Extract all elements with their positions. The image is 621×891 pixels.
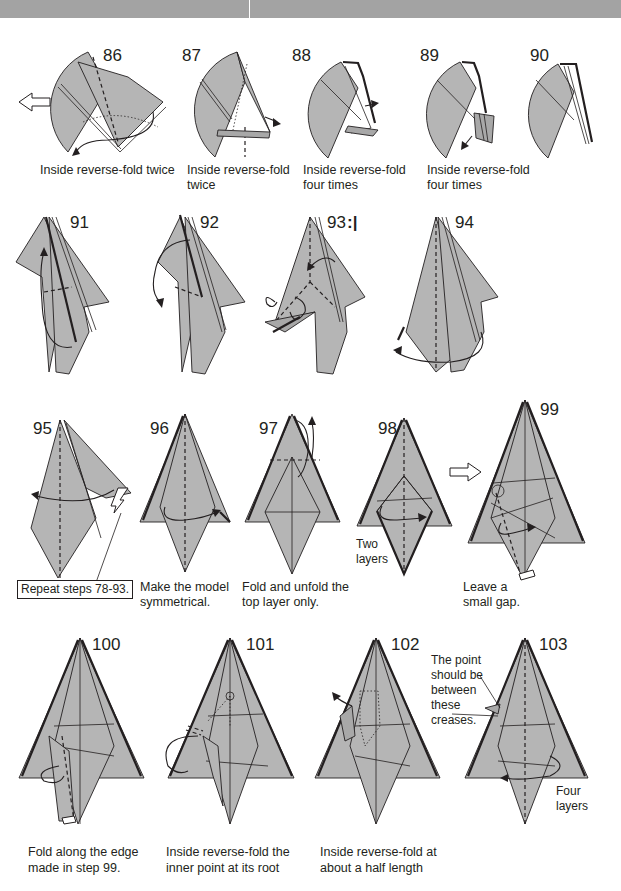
step-caption: Inside reverse-fold the xyxy=(166,845,290,860)
step-100-diagram xyxy=(14,636,149,826)
four-layers-note: layers xyxy=(556,799,588,814)
four-layers-note: Four xyxy=(556,784,581,799)
step-caption: twice xyxy=(187,178,215,193)
step-99-diagram xyxy=(463,398,593,583)
step-number: 98 xyxy=(378,420,397,437)
step-number: 88 xyxy=(292,47,311,64)
step-89-diagram xyxy=(424,58,504,168)
step-caption: top layer only. xyxy=(242,595,319,610)
step-caption: small gap. xyxy=(463,595,520,610)
step-90-diagram xyxy=(526,60,601,160)
step-number: 87 xyxy=(182,47,201,64)
point-note: between xyxy=(431,683,476,698)
step-caption: inner point at its root xyxy=(166,861,279,876)
point-note: creases. xyxy=(431,713,476,728)
step-101-diagram xyxy=(158,636,298,826)
step-number: 91 xyxy=(70,214,89,231)
step-number: 93 xyxy=(327,214,346,231)
step-caption: about a half length xyxy=(320,861,423,876)
step-number: 97 xyxy=(259,420,278,437)
header-bar-right xyxy=(250,0,621,18)
step-95-diagram xyxy=(16,418,136,583)
step-caption: Inside reverse-fold twice xyxy=(40,163,175,178)
step-87-diagram xyxy=(185,52,285,162)
hollow-arrow-icon xyxy=(18,92,52,112)
step-102-diagram xyxy=(310,636,445,826)
step-number: 95 xyxy=(33,420,52,437)
step-caption: four times xyxy=(303,178,358,193)
step-number: 103 xyxy=(539,636,567,653)
step-caption: made in step 99. xyxy=(28,861,120,876)
step-number: 102 xyxy=(391,636,419,653)
step-number: 94 xyxy=(455,214,474,231)
repeat-steps-note: Repeat steps 78-93. xyxy=(17,580,133,599)
step-caption: symmetrical. xyxy=(140,595,210,610)
step-93-diagram xyxy=(255,212,375,377)
point-note: should be xyxy=(431,668,483,683)
two-layers-note: Two xyxy=(356,537,378,552)
step-caption: four times xyxy=(427,178,482,193)
step-number: 96 xyxy=(150,420,169,437)
step-number: 100 xyxy=(92,636,120,653)
point-note: The point xyxy=(431,653,481,668)
step-caption: Make the model xyxy=(140,580,229,595)
step-caption: Inside reverse-fold at xyxy=(320,845,437,860)
repeat-mark-icon: :| xyxy=(347,214,357,231)
step-number: 92 xyxy=(200,214,219,231)
step-number: 99 xyxy=(540,401,559,418)
step-91-diagram xyxy=(14,212,114,377)
step-number: 101 xyxy=(246,636,274,653)
two-layers-note: layers xyxy=(356,552,388,567)
step-86-diagram xyxy=(48,52,168,162)
step-caption: Fold along the edge xyxy=(28,845,139,860)
step-caption: Fold and unfold the xyxy=(242,580,349,595)
header-bar-left xyxy=(0,0,250,18)
step-number: 90 xyxy=(530,47,549,64)
step-number: 89 xyxy=(420,47,439,64)
step-88-diagram xyxy=(303,58,388,163)
step-caption: Inside reverse-fold xyxy=(427,163,530,178)
step-94-diagram xyxy=(396,212,506,377)
step-number: 86 xyxy=(103,47,122,64)
point-note: these xyxy=(431,698,460,713)
step-caption: Inside reverse-fold xyxy=(187,163,290,178)
step-caption: Inside reverse-fold xyxy=(303,163,406,178)
step-97-diagram xyxy=(240,412,340,577)
page-header-bar xyxy=(0,0,621,18)
step-caption: Leave a xyxy=(463,580,507,595)
step-92-diagram xyxy=(150,212,250,377)
